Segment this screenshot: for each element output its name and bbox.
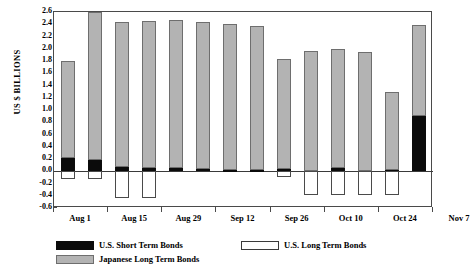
y-axis-tick-label: 1.6	[0, 67, 59, 76]
bar-segment-short-term	[88, 160, 102, 172]
x-axis-tick-mark	[324, 207, 325, 212]
y-axis-tick-label: 0.2	[0, 153, 59, 162]
x-axis-tick-label: Sep 12	[213, 213, 273, 223]
x-axis-tick-mark	[432, 207, 433, 212]
bar-segment-long-term	[115, 171, 129, 198]
bar-segment-japanese-long-term	[169, 20, 183, 168]
bar-segment-long-term	[61, 171, 75, 178]
bar-segment-japanese-long-term	[250, 26, 264, 170]
bar-segment-japanese-long-term	[61, 61, 75, 158]
bar-segment-long-term	[304, 171, 318, 194]
x-axis-tick-mark	[53, 207, 54, 212]
x-axis-tick-mark	[270, 207, 271, 212]
bar-segment-japanese-long-term	[304, 51, 318, 172]
y-axis-tick-label: 1.0	[0, 104, 59, 113]
bar-segment-short-term	[223, 170, 237, 172]
bar-segment-japanese-long-term	[142, 21, 156, 169]
legend-item-japanese-long-term: Japanese Long Term Bonds	[56, 254, 199, 264]
x-axis-tick-label: Aug 1	[50, 213, 110, 223]
legend-label-long-term: U.S. Long Term Bonds	[284, 240, 366, 250]
x-axis-tick-label: Oct 10	[321, 213, 381, 223]
bar-segment-long-term	[142, 171, 156, 198]
x-axis-tick-mark	[107, 207, 108, 212]
y-axis-tick-label: 2.4	[0, 18, 59, 27]
plot-area	[53, 11, 432, 207]
legend-row-2: Japanese Long Term Bonds	[56, 254, 436, 268]
x-axis-tick-mark	[161, 207, 162, 212]
zero-baseline	[54, 171, 433, 172]
bar-segment-japanese-long-term	[358, 52, 372, 171]
x-axis-tick-mark	[378, 207, 379, 212]
y-axis-tick-label: -0.2	[0, 178, 59, 187]
y-axis-tick-label: 0.0	[0, 165, 59, 174]
bar-segment-long-term	[358, 171, 372, 194]
x-axis-tick-label: Oct 24	[375, 213, 435, 223]
bar-segment-japanese-long-term	[331, 49, 345, 168]
long-term-swatch-icon	[241, 241, 279, 250]
bar-segment-japanese-long-term	[88, 12, 102, 160]
x-axis-tick-label: Sep 26	[267, 213, 327, 223]
legend-label-short-term: U.S. Short Term Bonds	[99, 240, 183, 250]
x-axis-tick-label: Aug 15	[104, 213, 164, 223]
legend-item-long-term: U.S. Long Term Bonds	[241, 240, 366, 250]
bar-segment-long-term	[331, 171, 345, 194]
y-axis-tick-label: 2.0	[0, 43, 59, 52]
bar-segment-short-term	[412, 116, 426, 171]
bar-segment-japanese-long-term	[385, 92, 399, 170]
y-axis-tick-label: 1.2	[0, 92, 59, 101]
bar-segment-japanese-long-term	[196, 22, 210, 169]
bar-segment-long-term	[277, 171, 291, 177]
bar-segment-japanese-long-term	[115, 22, 129, 167]
y-axis-tick-label: -0.4	[0, 190, 59, 199]
japanese-long-term-swatch-icon	[56, 255, 94, 264]
bar-segment-japanese-long-term	[277, 59, 291, 170]
legend-item-short-term: U.S. Short Term Bonds	[56, 240, 183, 250]
y-axis-tick-label: 2.2	[0, 31, 59, 40]
y-axis-tick-label: -0.6	[0, 202, 59, 211]
x-axis-tick-label: Aug 29	[158, 213, 218, 223]
y-axis-tick-label: 1.4	[0, 80, 59, 89]
y-axis-tick-label: 0.4	[0, 141, 59, 150]
bar-segment-japanese-long-term	[412, 25, 426, 116]
bar-segment-short-term	[250, 170, 264, 172]
bar-segment-short-term	[196, 169, 210, 171]
legend-row-1: U.S. Short Term Bonds U.S. Long Term Bon…	[56, 240, 436, 254]
x-axis-tick-label: Nov 7	[429, 213, 474, 223]
y-axis-tick-label: 0.8	[0, 116, 59, 125]
bar-segment-japanese-long-term	[223, 24, 237, 170]
chart-legend: U.S. Short Term Bonds U.S. Long Term Bon…	[56, 240, 436, 268]
short-term-swatch-icon	[56, 241, 94, 250]
bar-segment-short-term	[61, 158, 75, 171]
bar-segment-long-term	[88, 171, 102, 179]
y-axis-tick-label: 0.6	[0, 129, 59, 138]
legend-label-japanese-long-term: Japanese Long Term Bonds	[99, 254, 199, 264]
y-axis-tick-label: 1.8	[0, 55, 59, 64]
bar-segment-long-term	[385, 171, 399, 194]
x-axis-tick-mark	[215, 207, 216, 212]
bar-segment-short-term	[169, 168, 183, 171]
y-axis-tick-label: 2.6	[0, 6, 59, 15]
